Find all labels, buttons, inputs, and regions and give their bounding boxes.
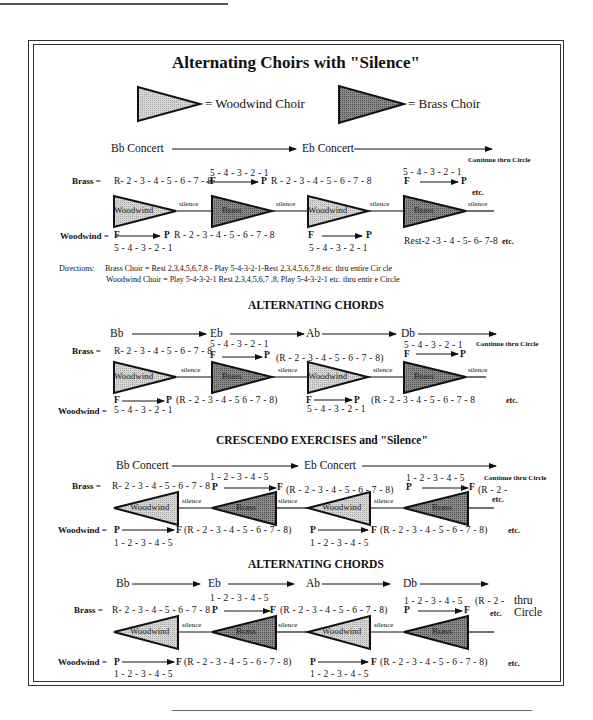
continue-label: Continue thru Circle [476, 340, 538, 348]
page-title: Alternating Choirs with "Silence" [172, 53, 420, 73]
dynamic-forte: F [371, 525, 377, 535]
key-label: Db [403, 577, 417, 589]
triangle-label-woodwind: Woodwind [114, 371, 153, 381]
continue-label: Continue thru Circle [468, 156, 530, 164]
dynamic-piano: P [114, 657, 120, 667]
woodwind-counts: 1 - 2 - 3 - 4 - 5 [114, 669, 173, 679]
brass-counts: 5 - 4 - 3 - 2 - 1 [210, 339, 269, 349]
footer-rule [172, 710, 532, 711]
woodwind-rest: (R - 2 - 3 - 4 - 5 - 6 - 7 - 8) [380, 657, 488, 667]
woodwind-counts: 5 - 4 - 3 - 2 - 1 [114, 243, 173, 253]
woodwind-rest: (R - 2 - 3 - 4 - 5 - 6 - 7 - 8) [380, 525, 488, 535]
triangle-label-brass: Brass [414, 205, 434, 215]
continue-label: Continue thru Circle [484, 474, 546, 482]
silence-label: silence [276, 200, 295, 208]
dynamic-forte: F [371, 657, 377, 667]
key-label: Eb [210, 327, 223, 339]
brass-rest: R- 2 - 3 - 4 - 5 - 6 - 7 - 8 [114, 176, 212, 186]
dynamic-piano: P [310, 657, 316, 667]
dynamic-forte: F [176, 525, 182, 535]
dynamic-piano: P [404, 605, 410, 615]
brass-counts: 5 - 4 - 3 - 2 - 1 [404, 340, 463, 350]
silence-label: silence [278, 366, 297, 374]
key-label: Bb [110, 327, 123, 339]
dynamic-piano: P [212, 482, 218, 492]
dynamic-forte: F [270, 605, 276, 615]
etc-label: etc. [508, 526, 520, 535]
section-heading: CRESCENDO EXERCISES and "Silence" [216, 434, 428, 446]
woodwind-counts: 1 - 2 - 3 - 4 - 5 [114, 538, 173, 548]
triangle-label-woodwind: Woodwind [322, 502, 361, 512]
woodwind-row-label: Woodwind = [58, 406, 107, 416]
silence-label: silence [468, 200, 487, 208]
dynamic-forte: F [210, 350, 216, 360]
dynamic-forte: F [464, 605, 470, 615]
silence-label: silence [182, 621, 201, 629]
brass-rest: (R - 2 - [478, 485, 507, 495]
woodwind-counts: 1 - 2 - 3 - 4 - 5 [310, 669, 369, 679]
dynamic-forte: F [404, 349, 410, 359]
silence-label: silence [370, 200, 389, 208]
brass-counts: 1 - 2 - 3 - 4 - 5 [406, 473, 465, 483]
woodwind-row-label: Woodwind = [60, 231, 109, 241]
legend-woodwind-label: = Woodwind Choir [205, 96, 305, 112]
key-label: Ab [306, 327, 320, 339]
woodwind-rest: (R - 2 - 3 - 4 - 5 - 6 - 7 - 8 [371, 395, 475, 405]
brass-counts: 5 - 4 - 3 - 2 - 1 [210, 168, 269, 178]
triangle-label-brass: Brass [222, 205, 242, 215]
triangle-label-brass: Brass [236, 626, 256, 636]
dynamic-forte: F [114, 230, 120, 240]
key-label: Db [401, 327, 415, 339]
brass-rest: (R - 2 - 3 - 4 - 5 - 6 - 7 - 8) [280, 605, 388, 615]
silence-label: silence [278, 497, 297, 505]
key-label: Bb [116, 577, 129, 589]
triangle-label-brass: Brass [432, 626, 452, 636]
etc-label: etc. [490, 609, 502, 618]
silence-label: silence [182, 497, 201, 505]
woodwind-rest: (R - 2 - 3 - 4 - 5 6 - 7 - 8) [176, 395, 278, 405]
brass-rest: (R - 2 - 3 - 4 - 5 - 6 - 7 - 8) [276, 353, 384, 363]
silence-label: silence [181, 366, 200, 374]
dynamic-forte: F [114, 395, 120, 405]
dynamic-piano: P [164, 230, 170, 240]
woodwind-counts: 5 - 4 - 3 - 2 - 1 [309, 243, 368, 253]
dynamic-piano: P [406, 482, 412, 492]
key-label: Eb Concert [304, 459, 356, 471]
key-label: Eb [208, 577, 221, 589]
etc-label: etc. [472, 188, 484, 197]
brass-rest: (R - 2 - [475, 596, 504, 606]
brass-row-label: Brass = [72, 346, 101, 356]
brass-rest: R - 2 - 3 - 4 - 5 - 6 - 7 - 8 [271, 176, 372, 186]
silence-label: silence [278, 621, 297, 629]
brass-row-label: Brass = [74, 605, 103, 615]
dynamic-piano: P [261, 176, 267, 186]
brass-rest: R- 2 - 3 - 4 - 5 - 6 - 7 - 8 [114, 346, 212, 356]
brass-row-label: Brass = [72, 481, 101, 491]
key-label: Ab [306, 577, 320, 589]
dynamic-forte: F [469, 482, 475, 492]
brass-rest: R- 2 - 3 - 4 - 5 - 6 - 7 - 8 [112, 605, 210, 615]
woodwind-row-label: Woodwind = [58, 657, 107, 667]
dynamic-piano: P [366, 230, 372, 240]
woodwind-row-label: Woodwind = [58, 525, 107, 535]
silence-label: silence [374, 621, 393, 629]
dynamic-piano: P [212, 605, 218, 615]
triangle-label-woodwind: Woodwind [114, 205, 153, 215]
directions-label: Directions: [59, 264, 95, 273]
triangle-label-brass: Brass [236, 502, 256, 512]
dynamic-forte: F [308, 230, 314, 240]
dynamic-forte: F [176, 657, 182, 667]
dynamic-piano: P [264, 350, 270, 360]
directions-woodwind: Woodwind Choir = Play 5-4-3-2-1 Rest 2,3… [106, 275, 400, 284]
woodwind-counts: 1 - 2 - 3 - 4 - 5 [310, 538, 369, 548]
triangle-label-woodwind: Woodwind [308, 205, 347, 215]
dynamic-forte: F [210, 176, 216, 186]
section-heading: ALTERNATING CHORDS [248, 299, 384, 311]
triangle-label-brass: Brass [222, 371, 242, 381]
brass-rest: (R - 2 - 3 - 4 - 5 - 6 - 7 - 8) [286, 485, 394, 495]
woodwind-rest: (R - 2 - 3 - 4 - 5 - 6 - 7 - 8) [184, 525, 292, 535]
key-label: Bb Concert [116, 459, 169, 471]
legend-brass-triangle [339, 86, 404, 123]
triangle-label-woodwind: Woodwind [130, 502, 169, 512]
brass-row-label: Brass = [72, 176, 101, 186]
